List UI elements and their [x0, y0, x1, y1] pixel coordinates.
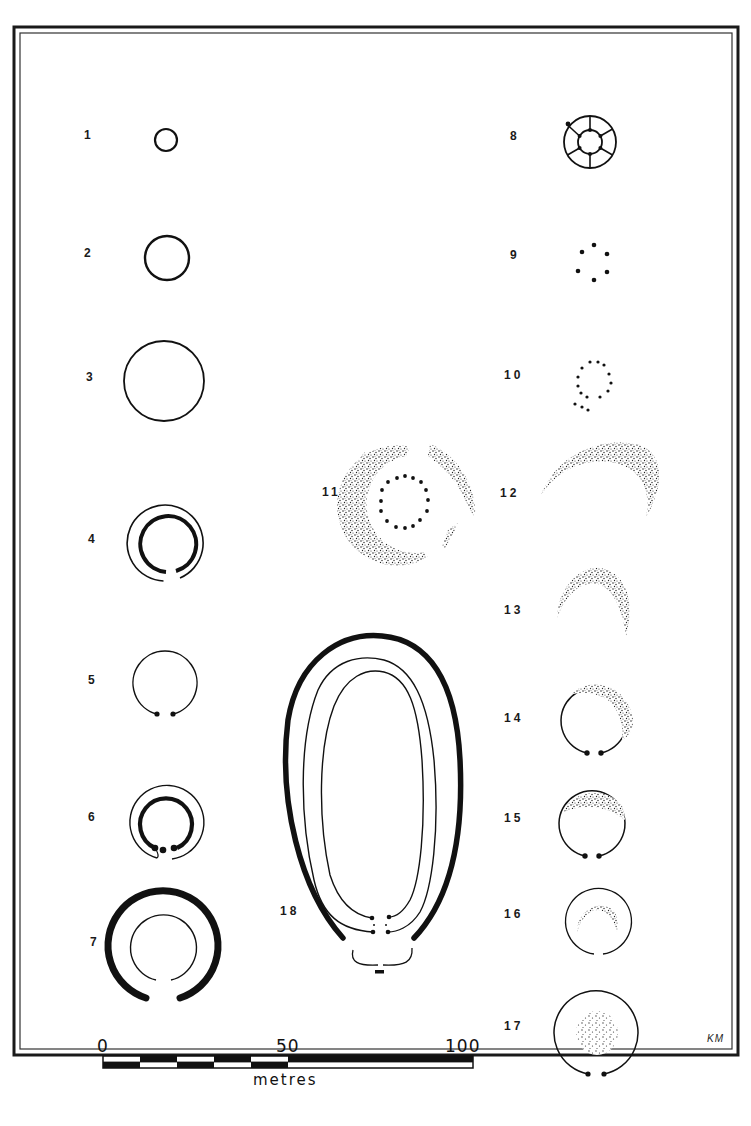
- draftsman-initials: KM: [707, 1033, 724, 1044]
- figure-label-14: 14: [504, 711, 523, 725]
- figure-label-2: 2: [84, 246, 94, 260]
- figure-3-large-ring: [124, 341, 204, 421]
- figure-4-double-ring: [127, 505, 203, 581]
- figure-2-medium-ring: [145, 236, 189, 280]
- figure-label-6: 6: [88, 810, 98, 824]
- figure-7-heavy-penannular: [108, 891, 218, 998]
- scale-tick-100: 100: [445, 1036, 480, 1056]
- figure-13-stippled-crescent: [557, 568, 630, 636]
- figure-11-stippled-bank: [337, 444, 475, 566]
- figure-label-16: 16: [504, 907, 523, 921]
- figure-12-stippled-crescent: [540, 442, 659, 517]
- figure-18-oval-enclosure: [286, 636, 461, 974]
- figure-17-penannular-mound: [554, 991, 638, 1077]
- figure-16-ring-inner-arc: [566, 888, 632, 954]
- figure-label-10: 10: [504, 368, 523, 382]
- figure-1-small-ring: [155, 129, 177, 151]
- figure-9-post-ring: [576, 243, 610, 283]
- figure-label-1: 1: [84, 128, 94, 142]
- figure-label-17: 17: [504, 1019, 523, 1033]
- figure-label-5: 5: [88, 673, 98, 687]
- figure-label-8: 8: [510, 129, 520, 143]
- figure-label-15: 15: [504, 811, 523, 825]
- figure-6-double-penannular: [130, 785, 204, 859]
- figure-10-post-ring: [573, 360, 612, 411]
- scale-unit-label: metres: [253, 1071, 318, 1089]
- scale-tick-50: 50: [276, 1036, 300, 1056]
- figure-label-18: 18: [280, 904, 299, 918]
- figure-8-spoked-ring: [564, 116, 616, 168]
- figure-15-penannular-stippled-cap: [559, 791, 625, 859]
- figure-14-penannular-stippled: [561, 684, 633, 755]
- diagram-plate: 1 2 3 4 5 6 7 8 9 10 11 12 13 14 15 16 1…: [0, 0, 751, 1126]
- plate-drawing: [0, 0, 751, 1126]
- figure-label-4: 4: [88, 532, 98, 546]
- figure-5-penannular-ring: [133, 651, 197, 717]
- figure-label-9: 9: [510, 248, 520, 262]
- figure-label-12: 12: [500, 486, 519, 500]
- figure-label-13: 13: [504, 603, 523, 617]
- figure-label-11: 11: [322, 485, 341, 499]
- figure-label-7: 7: [90, 935, 100, 949]
- figure-label-3: 3: [86, 370, 96, 384]
- scale-bar: [103, 1056, 473, 1068]
- scale-tick-0: 0: [97, 1036, 109, 1056]
